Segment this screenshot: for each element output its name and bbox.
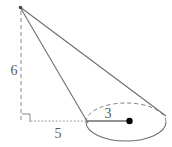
base-ellipse-back-arc-dashed — [86, 103, 166, 122]
radius-label-3: 3 — [105, 106, 112, 121]
cone-slant-line-left — [20, 7, 88, 123]
base-center-dot — [126, 118, 132, 124]
geometry-figure: 6 5 3 — [0, 0, 172, 147]
cone-slant-line-right — [20, 7, 166, 116]
base-ellipse-front-arc — [86, 122, 166, 141]
offset-label-5: 5 — [55, 126, 62, 141]
apex-point — [19, 6, 23, 10]
height-label-6: 6 — [11, 63, 18, 78]
cone-diagram-canvas: 6 5 3 — [0, 0, 172, 147]
right-angle-marker — [22, 114, 30, 122]
